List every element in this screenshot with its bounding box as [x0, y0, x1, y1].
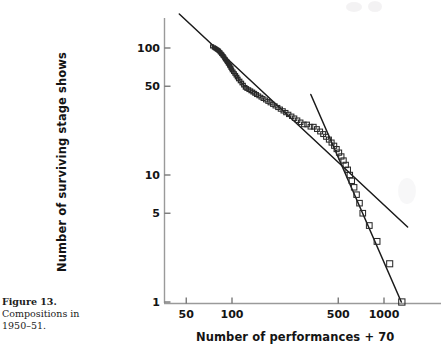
x-tick-label-100: 100 — [221, 308, 244, 321]
y-tick-label-50: 50 — [145, 80, 160, 93]
y-tick-label-5: 5 — [152, 207, 160, 220]
y-tick-label-10: 10 — [145, 169, 160, 182]
x-axis-title: Number of performances + 70 — [196, 330, 394, 344]
data-point-marker — [387, 261, 393, 267]
plot-axes — [164, 18, 441, 304]
figure-caption-line-2: 1950–51. — [2, 320, 120, 332]
tail-power-law-fit — [311, 95, 402, 302]
x-tick-label-1000: 1000 — [369, 308, 400, 321]
x-tick-label-50: 50 — [179, 308, 194, 321]
y-tick-label-100: 100 — [137, 42, 160, 55]
figure-caption-title: Figure 13. — [2, 296, 120, 308]
figure-13-root: 501005001000 151050100 Number of perform… — [0, 0, 446, 356]
axis-tick-marks — [165, 48, 385, 304]
fit-lines — [179, 14, 407, 302]
y-axis-title: Number of surviving stage shows — [55, 31, 69, 293]
data-point-markers — [211, 45, 405, 305]
x-tick-label-500: 500 — [327, 308, 350, 321]
figure-caption: Figure 13. Compositions in 1950–51. — [2, 296, 120, 333]
figure-caption-line-1: Compositions in — [2, 308, 120, 320]
y-tick-label-1: 1 — [152, 296, 160, 309]
